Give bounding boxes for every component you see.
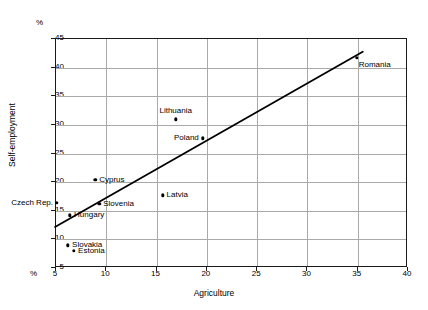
data-point-label: Romania — [359, 61, 391, 69]
x-axis-unit-label: % — [30, 270, 37, 278]
gridline-vertical — [307, 39, 308, 266]
data-point-label: Hungary — [74, 211, 104, 219]
gridline-vertical — [257, 39, 258, 266]
gridline-vertical — [358, 39, 359, 266]
x-tick-label: 20 — [191, 270, 221, 278]
data-point-label: Lithuania — [159, 107, 191, 115]
gridline-horizontal — [56, 68, 406, 69]
x-tick-label: 30 — [291, 270, 321, 278]
data-point-label: Estonia — [78, 247, 105, 255]
gridline-horizontal — [56, 211, 406, 212]
gridline-horizontal — [56, 125, 406, 126]
plot-area — [55, 38, 407, 267]
x-tick-label: 40 — [392, 270, 422, 278]
gridline-vertical — [207, 39, 208, 266]
data-point-label: Poland — [174, 134, 199, 142]
y-axis-title: Self-employment — [7, 85, 17, 185]
data-point-label: Latvia — [167, 191, 188, 199]
gridline-horizontal — [56, 96, 406, 97]
x-tick-label: 25 — [241, 270, 271, 278]
data-point-label: Slovenia — [103, 200, 134, 208]
x-tick-label: 15 — [141, 270, 171, 278]
x-axis-title: Agriculture — [0, 288, 428, 298]
data-point-label: Czech Rep. — [11, 199, 53, 207]
data-point-label: Cyprus — [99, 176, 124, 184]
gridline-horizontal — [56, 154, 406, 155]
gridline-vertical — [157, 39, 158, 266]
scatter-chart: % % Self-employment Agriculture 51015202… — [0, 0, 428, 310]
x-tick-label: 5 — [40, 270, 70, 278]
gridline-vertical — [106, 39, 107, 266]
gridline-horizontal — [56, 239, 406, 240]
x-tick-label: 10 — [90, 270, 120, 278]
y-axis-unit-label: % — [36, 19, 43, 27]
x-tick-label: 35 — [342, 270, 372, 278]
